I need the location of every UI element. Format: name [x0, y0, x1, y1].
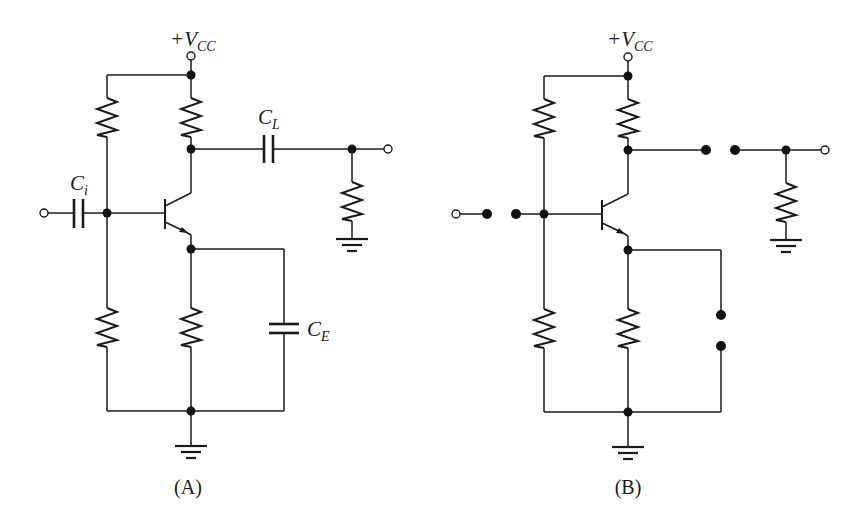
input-capacitor-label-a: Ci — [70, 171, 88, 198]
bias-resistor-upper-b — [534, 76, 554, 309]
vcc-label-a: +VCC — [170, 27, 216, 54]
circuit-b: +VCC — [452, 27, 829, 499]
base-junction-b — [540, 210, 549, 219]
load-resistor-a — [336, 149, 368, 251]
load-capacitor-label-a: CL — [258, 105, 280, 132]
open-input-cap-node-left-b — [482, 209, 492, 219]
caption-b: (B) — [615, 476, 642, 499]
ground-junction-b — [624, 408, 633, 417]
npn-transistor-b — [602, 194, 628, 250]
input-terminal-a — [40, 209, 48, 217]
output-terminal-a — [384, 145, 392, 153]
ground-junction-a — [187, 407, 196, 416]
collector-resistor-b — [618, 76, 638, 194]
output-terminal-b — [821, 146, 829, 154]
caption-a: (A) — [174, 476, 202, 499]
bias-resistor-lower-b — [534, 309, 554, 412]
circuit-a: +VCC CL — [40, 27, 392, 499]
collector-resistor-a — [181, 75, 201, 193]
circuit-figure: +VCC CL — [0, 0, 868, 529]
vcc-terminal-a — [187, 52, 195, 60]
input-terminal-b — [452, 210, 460, 218]
ground-icon-b — [612, 447, 644, 459]
emitter-resistor-a — [181, 249, 201, 446]
emitter-capacitor-label-a: CE — [307, 317, 330, 344]
bias-resistor-upper-a — [97, 75, 117, 308]
base-junction-a — [103, 209, 112, 218]
ground-icon-a — [175, 446, 207, 458]
bias-resistor-lower-a — [97, 308, 117, 411]
open-load-cap-node-left-b — [701, 145, 711, 155]
npn-transistor-a — [165, 193, 191, 249]
open-emitter-cap-node-top-b — [716, 310, 726, 320]
vcc-terminal-b — [624, 53, 632, 61]
load-resistor-b — [770, 150, 802, 252]
vcc-label-b: +VCC — [607, 27, 653, 54]
emitter-resistor-b — [618, 250, 638, 447]
